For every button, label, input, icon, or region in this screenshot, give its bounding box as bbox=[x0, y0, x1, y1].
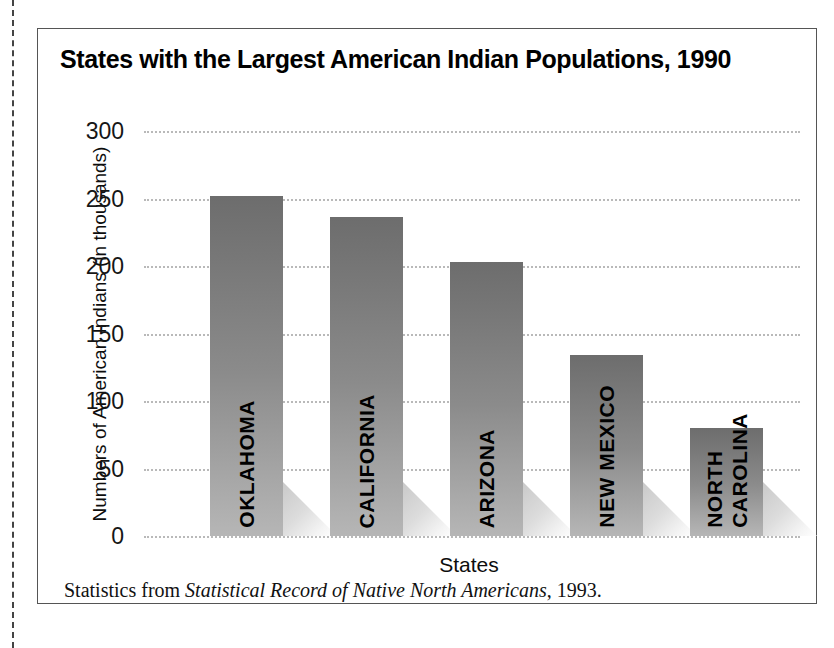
bar-label: ARIZONA bbox=[475, 429, 499, 528]
bar-label: NEW MEXICO bbox=[595, 385, 619, 528]
bar-shadow bbox=[403, 482, 457, 536]
bar-label-line: CAROLINA bbox=[727, 413, 751, 528]
gridline-300 bbox=[144, 131, 800, 133]
figure-frame: States with the Largest American Indian … bbox=[37, 28, 817, 604]
x-axis-title: States bbox=[138, 553, 800, 577]
y-tick-label-200: 200 bbox=[54, 253, 124, 280]
y-tick-label-50: 50 bbox=[54, 456, 124, 483]
bar-group[interactable]: OKLAHOMA bbox=[210, 196, 283, 536]
source-prefix: Statistics from bbox=[64, 579, 185, 601]
bar-label: OKLAHOMA bbox=[235, 400, 259, 528]
plot-area: Numbers of American Indians (in thousand… bbox=[138, 125, 800, 543]
bar-label-line: NEW MEXICO bbox=[595, 385, 619, 528]
bar-group[interactable]: NEW MEXICO bbox=[570, 355, 643, 536]
source-note: Statistics from Statistical Record of Na… bbox=[64, 579, 602, 602]
gridline-0 bbox=[144, 536, 800, 538]
y-tick-label-250: 250 bbox=[54, 186, 124, 213]
bar-group[interactable]: NORTHCAROLINA bbox=[690, 428, 763, 536]
source-suffix: , 1993. bbox=[547, 579, 602, 601]
y-tick-label-100: 100 bbox=[54, 388, 124, 415]
y-tick-label-150: 150 bbox=[54, 321, 124, 348]
bar-label: NORTHCAROLINA bbox=[702, 413, 751, 528]
bar-label-line: OKLAHOMA bbox=[235, 400, 259, 528]
y-tick-label-300: 300 bbox=[54, 118, 124, 145]
bar-group[interactable]: ARIZONA bbox=[450, 262, 523, 536]
bar-label-line: CALIFORNIA bbox=[355, 394, 379, 529]
bar-label: CALIFORNIA bbox=[355, 394, 379, 529]
bar-shadow bbox=[283, 482, 337, 536]
bar-group[interactable]: CALIFORNIA bbox=[330, 217, 403, 536]
source-title: Statistical Record of Native North Ameri… bbox=[185, 579, 547, 601]
bar-shadow bbox=[763, 482, 817, 536]
bar-shadow bbox=[523, 482, 577, 536]
bar-shadow bbox=[643, 482, 697, 536]
y-tick-label-0: 0 bbox=[54, 523, 124, 550]
bar-label-line: ARIZONA bbox=[475, 429, 499, 528]
cut-line-dashed bbox=[12, 0, 14, 648]
bar-label-line: NORTH bbox=[702, 413, 726, 528]
chart-title: States with the Largest American Indian … bbox=[60, 45, 800, 74]
